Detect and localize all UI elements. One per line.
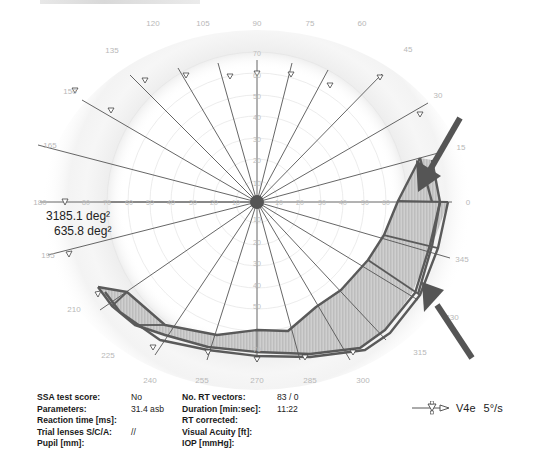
svg-text:240: 240 [143,376,157,385]
svg-text:30: 30 [318,199,326,206]
svg-text:75: 75 [306,19,315,28]
svg-text:30: 30 [253,260,261,267]
svg-text:30: 30 [189,199,197,206]
svg-text:40: 40 [167,199,175,206]
svg-text:300: 300 [356,376,370,385]
svg-text:50: 50 [253,303,261,310]
legend-stimulus: V4e [456,402,476,414]
ssa-test-score-label: SSA test score: [37,392,117,404]
info-labels-right: No. RT vectors: Duration [min:sec]: RT c… [182,392,261,450]
seeing-area-label: 635.8 deg² [54,224,111,238]
rt-vectors-value: 83 / 0 [277,392,299,404]
rt-vectors-label: No. RT vectors: [182,392,261,404]
svg-text:50: 50 [361,199,369,206]
svg-text:50: 50 [253,93,261,100]
legend: V4e 5°/s [412,401,503,415]
kinetic-perimetry-plot: 120 105 90 75 60 45 30 15 0 345 330 315 … [0,0,535,390]
svg-text:70: 70 [103,199,111,206]
svg-text:120: 120 [146,19,160,28]
svg-text:180: 180 [33,198,47,207]
svg-text:10: 10 [253,180,261,187]
info-labels-left: SSA test score: Parameters: Reaction tim… [37,392,117,450]
iop-value [277,438,299,450]
svg-text:270: 270 [250,376,264,385]
svg-text:20: 20 [253,157,261,164]
info-values-right: 83 / 0 11:22 [277,392,299,450]
svg-text:90: 90 [253,19,262,28]
svg-text:70: 70 [253,50,261,57]
svg-text:165: 165 [43,141,57,150]
svg-text:285: 285 [303,376,317,385]
svg-text:20: 20 [253,239,261,246]
svg-text:60: 60 [358,19,367,28]
svg-text:60: 60 [253,72,261,79]
svg-text:0: 0 [466,198,471,207]
svg-text:150: 150 [63,87,77,96]
svg-text:80: 80 [82,199,90,206]
parameters-value: 31.4 asb [131,404,164,416]
svg-text:60: 60 [125,199,133,206]
svg-text:40: 40 [339,199,347,206]
visual-acuity-label: Visual Acuity [ft]: [182,427,261,439]
svg-text:315: 315 [413,348,427,357]
trial-lenses-label: Trial lenses S/C/A: [37,427,117,439]
svg-text:60: 60 [382,199,390,206]
svg-text:10: 10 [232,199,240,206]
svg-text:210: 210 [67,305,81,314]
rt-corrected-value [277,415,299,427]
pupil-label: Pupil [mm]: [37,438,117,450]
svg-text:40: 40 [253,114,261,121]
svg-text:20: 20 [210,199,218,206]
kinetic-vector-arrow-icon [412,401,452,415]
info-values-left: No 31.4 asb // [131,392,164,450]
visual-acuity-value [277,427,299,439]
reaction-time-value [131,415,164,427]
svg-text:50: 50 [146,199,154,206]
parameters-label: Parameters: [37,404,117,416]
svg-text:45: 45 [404,45,413,54]
legend-speed: 5°/s [484,402,503,414]
duration-value: 11:22 [277,404,299,416]
svg-text:10: 10 [275,199,283,206]
svg-text:105: 105 [196,19,210,28]
svg-text:30: 30 [253,136,261,143]
svg-text:70: 70 [253,346,261,353]
trial-lenses-value: // [131,427,164,439]
reaction-time-label: Reaction time [ms]: [37,415,117,427]
rt-corrected-label: RT corrected: [182,415,261,427]
svg-text:15: 15 [457,143,466,152]
total-area-label: 3185.1 deg² [46,209,110,223]
duration-label: Duration [min:sec]: [182,404,261,416]
svg-text:225: 225 [101,351,115,360]
svg-text:135: 135 [105,46,119,55]
svg-text:40: 40 [253,282,261,289]
svg-text:10: 10 [253,216,261,223]
svg-text:195: 195 [41,251,55,260]
svg-text:255: 255 [195,376,209,385]
svg-text:20: 20 [296,199,304,206]
iop-label: IOP [mmHg]: [182,438,261,450]
svg-text:345: 345 [455,255,469,264]
svg-text:30: 30 [434,91,443,100]
fixation-center [250,195,264,209]
ssa-test-score-value: No [131,392,164,404]
pupil-value [131,438,164,450]
